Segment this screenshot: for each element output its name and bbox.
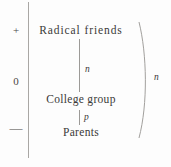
vertical-axis-line <box>28 2 29 158</box>
edge-label-p: p <box>84 112 89 122</box>
connector-college-to-parents <box>79 110 80 125</box>
axis-tick-negative: — <box>5 122 27 133</box>
brace-label-n: n <box>154 72 159 82</box>
node-label-radical-friends: Radical friends <box>33 24 129 36</box>
right-brace-arc-icon <box>128 16 154 144</box>
node-label-college-group: College group <box>33 93 129 105</box>
node-label-parents: Parents <box>33 126 129 138</box>
axis-tick-zero: 0 <box>5 76 27 87</box>
connector-radical-to-college <box>79 39 80 92</box>
edge-label-n: n <box>85 64 90 74</box>
influence-scale-diagram: + 0 — Radical friends n College group p … <box>0 0 171 167</box>
axis-tick-positive: + <box>5 25 27 36</box>
